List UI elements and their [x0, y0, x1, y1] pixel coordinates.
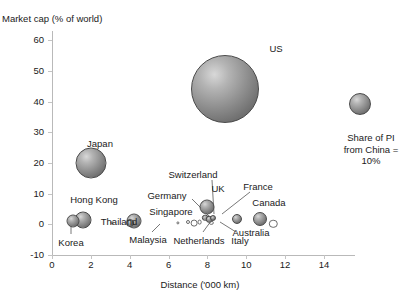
y-tick-mark [48, 163, 52, 164]
legend-line-3: 10% [338, 155, 404, 167]
x-tick-label: 6 [157, 259, 181, 270]
label-singapore: Singapore [149, 206, 192, 217]
x-tick-label: 0 [40, 259, 64, 270]
y-tick-label: 0 [22, 218, 44, 229]
label-korea: Korea [58, 237, 83, 248]
x-tick-label: 14 [312, 259, 336, 270]
label-japan: Japan [87, 138, 113, 149]
bubble-chart: Market cap (% of world) Distance ('000 k… [0, 0, 405, 299]
y-tick-mark [48, 224, 52, 225]
y-tick-label: 60 [22, 34, 44, 45]
x-tick-mark [246, 255, 247, 259]
x-tick-label: 2 [79, 259, 103, 270]
bubble-netherlands[interactable] [197, 220, 202, 225]
x-tick-label: 4 [118, 259, 142, 270]
x-axis-title: Distance ('000 km) [161, 279, 240, 290]
y-tick-mark [48, 132, 52, 133]
bubble-other-1[interactable] [177, 221, 180, 224]
y-tick-mark [48, 71, 52, 72]
y-tick-label: 20 [22, 157, 44, 168]
size-legend: Share of PI from China = 10% [338, 104, 404, 167]
x-tick-mark [169, 255, 170, 259]
label-australia: Australia [233, 227, 270, 238]
bubble-italy[interactable] [209, 221, 213, 225]
bubble-other-2[interactable] [186, 220, 190, 224]
y-tick-mark [48, 102, 52, 103]
label-thailand: Thailand [101, 216, 137, 227]
y-tick-label: 40 [22, 96, 44, 107]
label-switzerland: Switzerland [168, 169, 217, 180]
legend-line-1: Share of PI [338, 132, 404, 144]
y-tick-label: 30 [22, 126, 44, 137]
bubble-japan[interactable] [75, 147, 106, 178]
x-tick-mark [207, 255, 208, 259]
label-us: US [269, 43, 282, 54]
label-germany: Germany [147, 190, 186, 201]
label-france: France [243, 181, 273, 192]
bubble-australia[interactable] [232, 214, 242, 224]
label-canada: Canada [252, 197, 285, 208]
x-tick-label: 10 [234, 259, 258, 270]
x-tick-mark [324, 255, 325, 259]
y-axis-title: Market cap (% of world) [2, 13, 102, 24]
y-tick-mark [48, 40, 52, 41]
x-tick-label: 8 [195, 259, 219, 270]
y-tick-mark [48, 194, 52, 195]
legend-bubble-marker [349, 93, 371, 115]
y-tick-label: 10 [22, 188, 44, 199]
x-tick-mark [285, 255, 286, 259]
label-malaysia: Malaysia [129, 234, 167, 245]
y-axis-line [52, 31, 53, 255]
label-hong-kong: Hong Kong [70, 194, 118, 205]
bubble-us[interactable] [191, 55, 259, 123]
x-tick-label: 12 [273, 259, 297, 270]
x-tick-mark [52, 255, 53, 259]
label-netherlands: Netherlands [173, 235, 224, 246]
x-tick-mark [91, 255, 92, 259]
y-tick-label: 50 [22, 65, 44, 76]
bubble-other-3[interactable] [190, 219, 197, 226]
bubble-australia-2[interactable] [269, 219, 277, 227]
x-axis-line [52, 255, 355, 256]
x-tick-mark [130, 255, 131, 259]
legend-line-2: from China = [338, 144, 404, 156]
label-uk: UK [211, 183, 224, 194]
bubble-korea[interactable] [67, 215, 80, 228]
bubble-uk[interactable] [200, 200, 215, 215]
bubble-canada[interactable] [253, 212, 267, 226]
